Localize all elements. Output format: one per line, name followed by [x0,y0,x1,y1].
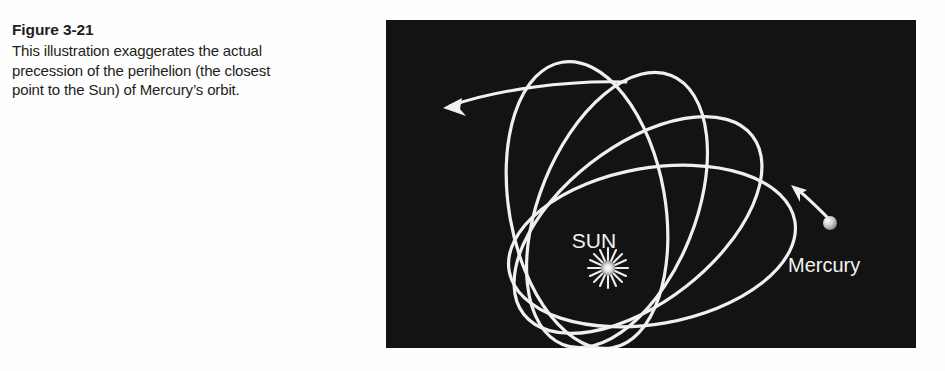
figure-page: Figure 3-21 This illustration exaggerate… [0,0,945,371]
figure-caption-text: This illustration exaggerates the actual… [12,41,362,100]
caption-line-2: precession of the perihelion (the closes… [12,61,362,81]
mercury-label: Mercury [788,254,860,276]
orbit-illustration-panel: SUN Mercury [386,20,916,348]
figure-caption: Figure 3-21 This illustration exaggerate… [12,20,362,100]
caption-line-1: This illustration exaggerates the actual [12,41,362,61]
panel-background [386,20,916,348]
figure-number: Figure 3-21 [12,20,362,40]
mercury-planet-dot-icon [823,216,837,230]
sun-label: SUN [572,229,616,252]
sun-starburst-icon [588,248,628,288]
caption-line-3: point to the Sun) of Mercury’s orbit. [12,80,362,100]
precession-diagram: SUN Mercury [386,20,916,348]
